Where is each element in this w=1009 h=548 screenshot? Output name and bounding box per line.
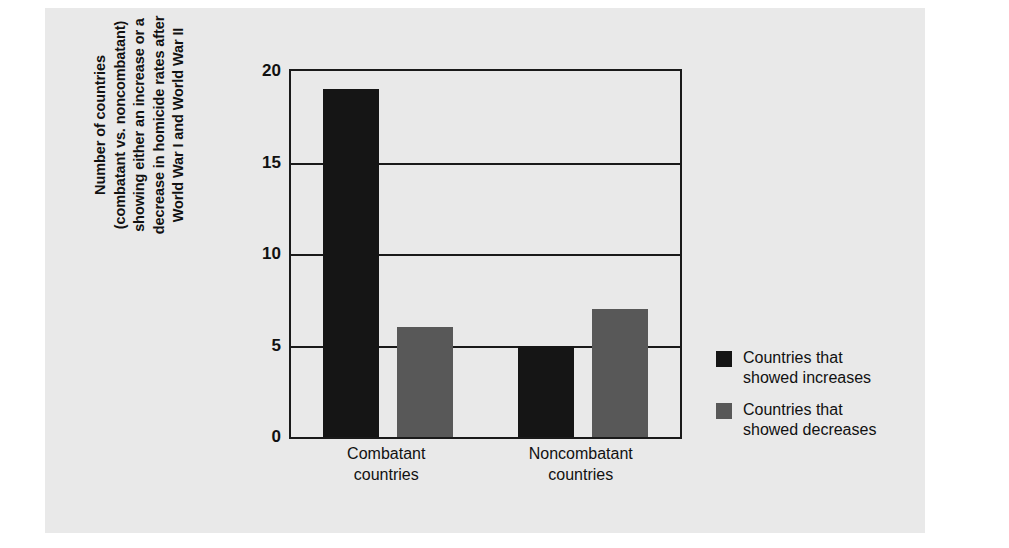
legend-label-increases-line-2: showed increases	[743, 368, 871, 388]
y-axis-title-line-2: (combatant vs. noncombatant)	[111, 21, 130, 229]
bar-increase-1[interactable]	[518, 346, 574, 438]
figure-root: Number of countries (combatant vs. nonco…	[0, 0, 1009, 548]
x-group-label-1-line-0: Noncombatant	[486, 444, 676, 465]
x-group-label-0: Combatantcountries	[291, 444, 481, 486]
y-axis-title-line-4: decrease in homicide rates after	[150, 16, 169, 234]
x-axis-tick-labels: CombatantcountriesNoncombatantcountries	[289, 444, 682, 504]
bar-increase-0[interactable]	[323, 89, 379, 437]
chart-legend: Countries that showed increases Countrie…	[716, 348, 916, 452]
y-axis-title-line-1: Number of countries	[91, 55, 110, 195]
legend-swatch-decreases-icon	[716, 403, 732, 419]
y-tick-label-5: 5	[235, 336, 281, 356]
plot-area	[289, 69, 682, 439]
legend-swatch-increases-icon	[716, 351, 732, 367]
y-axis-title-line-3: showing either an increase or a	[130, 18, 149, 232]
legend-label-decreases-line-2: showed decreases	[743, 420, 876, 440]
x-group-label-1-line-1: countries	[486, 465, 676, 486]
bar-decrease-1[interactable]	[592, 309, 648, 437]
legend-label-decreases: Countries that showed decreases	[743, 400, 876, 441]
y-tick-label-0: 0	[235, 427, 281, 447]
x-group-label-0-line-1: countries	[291, 465, 481, 486]
bar-decrease-0[interactable]	[397, 327, 453, 437]
legend-label-increases: Countries that showed increases	[743, 348, 871, 389]
y-axis-title-line-5: World War I and World War II	[169, 28, 188, 223]
y-tick-label-10: 10	[235, 244, 281, 264]
legend-item-decreases[interactable]: Countries that showed decreases	[716, 400, 916, 441]
legend-label-decreases-line-1: Countries that	[743, 400, 876, 420]
y-tick-label-15: 15	[235, 153, 281, 173]
x-group-label-1: Noncombatantcountries	[486, 444, 676, 486]
x-group-label-0-line-0: Combatant	[291, 444, 481, 465]
y-axis-tick-labels: 05101520	[231, 69, 281, 439]
y-axis-title: Number of countries (combatant vs. nonco…	[75, 0, 205, 325]
legend-item-increases[interactable]: Countries that showed increases	[716, 348, 916, 389]
legend-label-increases-line-1: Countries that	[743, 348, 871, 368]
y-tick-label-20: 20	[235, 61, 281, 81]
